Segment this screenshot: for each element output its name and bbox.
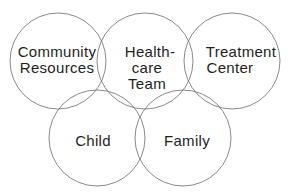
circle-community-resources: Community Resources xyxy=(10,13,106,109)
circle-family: Family xyxy=(135,90,231,186)
health-care-team-label-line2: care xyxy=(132,59,162,76)
health-care-team-label-line1: Health- xyxy=(125,43,175,60)
circle-child: Child xyxy=(49,90,145,186)
treatment-center-label-line2: Center xyxy=(207,59,254,76)
health-care-team-label-line3: Team xyxy=(128,75,166,92)
family-label: Family xyxy=(164,132,210,149)
child-label: Child xyxy=(75,132,111,149)
circle-health-care-team: Health- care Team xyxy=(97,13,193,109)
circle-treatment-center: Treatment Center xyxy=(184,13,280,109)
overlapping-circles-diagram: Community Resources Health- care Team Tr… xyxy=(0,0,288,195)
community-resources-label-line1: Community xyxy=(18,43,97,60)
treatment-center-label-line1: Treatment xyxy=(206,43,277,60)
community-resources-label-line2: Resources xyxy=(20,59,94,76)
